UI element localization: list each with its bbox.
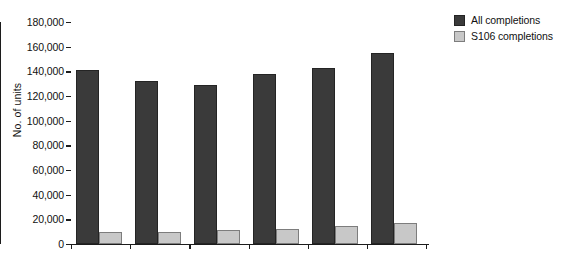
y-axis-tick-label: 160,000 — [27, 41, 64, 53]
bar-s106-completions — [158, 232, 181, 244]
legend-item-all-completions: All completions — [454, 14, 553, 26]
bar-all-completions — [76, 70, 99, 244]
y-axis-tick-label: 40,000 — [32, 189, 64, 201]
y-axis-title: No. of units — [11, 55, 23, 165]
bar-chart: No. of units 020,00040,00060,00080,00010… — [0, 0, 572, 269]
bar-s106-completions — [99, 232, 122, 244]
x-axis-tick — [189, 244, 190, 249]
x-axis-tick — [426, 244, 427, 249]
x-axis-tick — [71, 244, 72, 249]
x-axis-tick — [308, 244, 309, 249]
legend-item-s106-completions: S106 completions — [454, 30, 553, 42]
y-axis-tick — [66, 71, 71, 72]
y-axis-tick — [66, 145, 71, 146]
bar-s106-completions — [335, 226, 358, 245]
bar-all-completions — [371, 53, 394, 244]
bar-s106-completions — [276, 229, 299, 244]
legend-swatch-all-completions — [454, 15, 465, 26]
y-axis-line — [0, 22, 1, 244]
y-axis-tick-label: 80,000 — [32, 139, 64, 151]
y-axis-tick — [66, 22, 71, 23]
y-axis-tick — [66, 219, 71, 220]
bar-s106-completions — [394, 223, 417, 244]
bar-all-completions — [194, 85, 217, 244]
y-axis-tick-label: 100,000 — [27, 115, 64, 127]
bar-all-completions — [253, 74, 276, 244]
bar-all-completions — [135, 81, 158, 244]
y-axis-tick — [66, 121, 71, 122]
y-axis-tick-label: 180,000 — [27, 16, 64, 28]
y-axis-tick-label: 60,000 — [32, 164, 64, 176]
chart-legend: All completions S106 completions — [454, 14, 553, 42]
legend-label-all-completions: All completions — [471, 14, 540, 26]
legend-label-s106-completions: S106 completions — [471, 30, 553, 42]
x-axis-tick — [249, 244, 250, 249]
y-axis-tick-label: 20,000 — [32, 213, 64, 225]
y-axis-tick — [66, 96, 71, 97]
bar-s106-completions — [217, 230, 240, 244]
x-axis-tick — [367, 244, 368, 249]
bar-all-completions — [312, 68, 335, 244]
x-axis-tick — [130, 244, 131, 249]
y-axis-tick — [66, 170, 71, 171]
y-axis-tick-label: 0 — [58, 238, 64, 250]
y-axis-tick — [66, 195, 71, 196]
plot-area: 020,00040,00060,00080,000100,000120,0001… — [71, 22, 426, 244]
y-axis-tick-label: 140,000 — [27, 65, 64, 77]
y-axis-tick — [66, 47, 71, 48]
legend-swatch-s106-completions — [454, 31, 465, 42]
y-axis-tick-label: 120,000 — [27, 90, 64, 102]
